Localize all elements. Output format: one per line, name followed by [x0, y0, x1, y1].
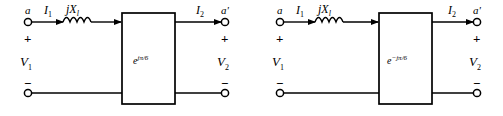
label-terminal-a: a	[25, 5, 31, 16]
label-minus-input: −	[24, 77, 31, 90]
label-plus-output: +	[473, 32, 480, 45]
label-current-i1: I1	[296, 4, 304, 19]
two-port-circuit-figure: a I1 jXl I2 a' + + V1 V2 − − ejπ/6	[0, 0, 503, 116]
label-voltage-v2: V2	[469, 55, 481, 72]
label-minus-output: −	[473, 77, 480, 90]
circuit-diagram-left: a I1 jXl I2 a' + + V1 V2 − − ejπ/6	[0, 0, 251, 116]
label-minus-input: −	[276, 77, 283, 90]
label-terminal-a-prime: a'	[221, 5, 229, 16]
terminal-a-input-top	[276, 18, 283, 25]
label-voltage-v1: V1	[272, 55, 284, 72]
terminal-a-input-top	[24, 18, 31, 25]
label-current-i2: I2	[196, 4, 204, 19]
label-plus-output: +	[221, 32, 228, 45]
label-plus-input: +	[24, 32, 31, 45]
phase-shifter-block	[122, 13, 175, 104]
label-minus-output: −	[221, 77, 228, 90]
label-terminal-a-prime: a'	[473, 5, 481, 16]
label-inductor-jxl: jXl	[66, 3, 79, 18]
label-voltage-v1: V1	[20, 55, 32, 72]
label-current-i2: I2	[448, 4, 456, 19]
label-voltage-v2: V2	[217, 55, 229, 72]
label-inductor-jxl: jXl	[318, 3, 331, 18]
label-phase-shift-value: ejπ/6	[133, 55, 148, 66]
circuit-left-schematic	[0, 0, 251, 116]
terminal-a-prime-output-top	[473, 18, 480, 25]
label-phase-shift-value: e−jπ/6	[387, 55, 407, 66]
circuit-diagram-right: a I1 jXl I2 a' + + V1 V2 − − e−jπ/6	[252, 0, 503, 116]
terminal-a-prime-output-top	[221, 18, 228, 25]
label-terminal-a: a	[277, 5, 283, 16]
label-plus-input: +	[276, 32, 283, 45]
circuit-right-schematic	[252, 0, 503, 116]
label-current-i1: I1	[44, 4, 52, 19]
